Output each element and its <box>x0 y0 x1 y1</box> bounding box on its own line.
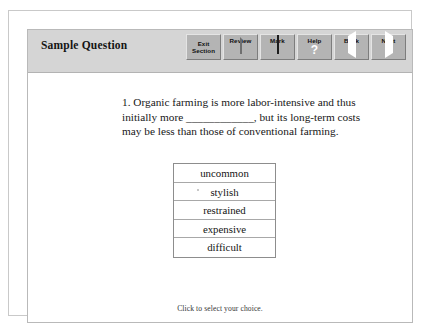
page-title: Sample Question <box>41 39 127 51</box>
choice-label: uncommon <box>200 167 249 179</box>
back-button[interactable]: Back <box>334 34 369 60</box>
toolbar: Exit Section Review Mark <box>186 34 406 60</box>
list-item[interactable]: expensive <box>174 220 275 239</box>
help-button[interactable]: Help ? <box>297 34 332 60</box>
question-body: 1. Organic farming is more labor-intensi… <box>28 73 412 323</box>
exit-section-button-label: Exit Section <box>192 40 215 54</box>
list-item[interactable]: uncommon <box>174 164 275 183</box>
choice-label: stylish <box>210 186 238 198</box>
answer-choices-list: uncommon stylish restrained expensive di… <box>173 163 276 258</box>
cursor-artifact <box>197 189 199 191</box>
header-bar: Sample Question Exit Section Review Mark <box>28 30 412 73</box>
footer-instruction: Click to select your choice. <box>28 304 412 313</box>
choice-label: expensive <box>203 223 246 235</box>
choice-label: restrained <box>203 204 246 216</box>
exam-panel: Sample Question Exit Section Review Mark <box>27 29 413 323</box>
exit-section-button[interactable]: Exit Section <box>186 34 221 60</box>
next-button[interactable]: Next <box>371 34 406 60</box>
question-mark-icon: ? <box>311 44 318 56</box>
mark-button[interactable]: Mark <box>260 34 295 60</box>
list-item[interactable]: stylish <box>174 183 275 202</box>
question-text: 1. Organic farming is more labor-intensi… <box>122 95 367 139</box>
review-button[interactable]: Review <box>223 34 258 60</box>
screen: Sample Question Exit Section Review Mark <box>0 0 422 335</box>
choice-label: difficult <box>207 241 242 253</box>
list-item[interactable]: difficult <box>174 238 275 257</box>
list-item[interactable]: restrained <box>174 201 275 220</box>
outer-frame: Sample Question Exit Section Review Mark <box>8 10 412 316</box>
